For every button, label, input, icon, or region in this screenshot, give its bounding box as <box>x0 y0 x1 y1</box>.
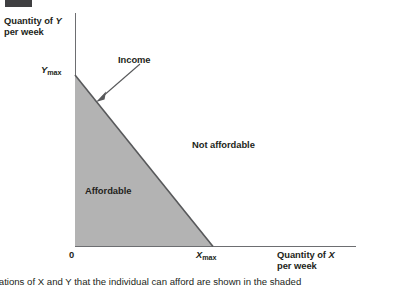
x-axis-title: Quantity of X per week <box>277 249 335 272</box>
x-max-subscript: max <box>202 253 216 262</box>
budget-constraint-figure: Quantity of Y per week Ymax Income Not a… <box>0 0 401 289</box>
x-axis-title-prefix: Quantity of <box>277 249 328 260</box>
income-label: Income <box>118 54 151 65</box>
x-max-intercept-label: Xmax <box>196 249 216 261</box>
income-arrow-icon <box>92 62 142 104</box>
figure-number-badge <box>5 0 32 7</box>
origin-label: 0 <box>69 249 74 260</box>
x-axis-title-variable: X <box>328 249 334 260</box>
figure-header-text <box>80 0 380 4</box>
not-affordable-label: Not affordable <box>192 139 255 150</box>
y-axis-title-line2: per week <box>4 26 44 37</box>
figure-caption: mbinations of X and Y that the individua… <box>0 276 401 288</box>
affordable-label: Affordable <box>85 185 131 196</box>
y-max-intercept-label: Ymax <box>41 64 61 76</box>
y-axis-title-prefix: Quantity of <box>4 15 55 26</box>
x-axis-title-line2: per week <box>277 260 317 271</box>
y-max-subscript: max <box>47 68 61 77</box>
y-axis-title-variable: Y <box>55 15 61 26</box>
y-axis-title: Quantity of Y per week <box>4 15 62 38</box>
